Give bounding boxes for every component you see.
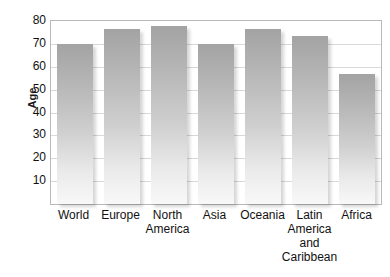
y-axis-tick-label: 60 [18, 60, 46, 72]
bar [57, 44, 93, 204]
x-axis-category-label-line: America [280, 222, 339, 236]
x-axis-category-label-line: America [138, 222, 197, 236]
bar [151, 26, 187, 204]
plot-area [50, 20, 382, 205]
bar [104, 29, 140, 204]
y-axis-tick-label: 70 [18, 37, 46, 49]
y-axis-tick-label: 80 [18, 14, 46, 26]
bar [292, 36, 328, 204]
y-axis-tick-label: 40 [18, 106, 46, 118]
y-axis-tick-label: 20 [18, 151, 46, 163]
bar [339, 74, 375, 204]
bars-layer [51, 21, 381, 204]
x-axis-category-labels: WorldEuropeNorthAmericaAsiaOceaniaLatinA… [50, 208, 382, 274]
y-axis-tick-label: 30 [18, 128, 46, 140]
bar [245, 29, 281, 204]
x-axis-category-label-line: Africa [327, 208, 386, 222]
y-axis-tick-label: 10 [18, 174, 46, 186]
y-axis-tick-labels: 8070605040302010 [18, 0, 46, 220]
x-axis-category-label-line: Caribbean [280, 250, 339, 264]
bar-chart: Age 8070605040302010 WorldEuropeNorthAme… [0, 0, 390, 277]
x-axis-category-label-line: and [280, 236, 339, 250]
bar [198, 44, 234, 204]
x-axis-category-label: Africa [327, 208, 386, 222]
y-axis-tick-label: 50 [18, 83, 46, 95]
